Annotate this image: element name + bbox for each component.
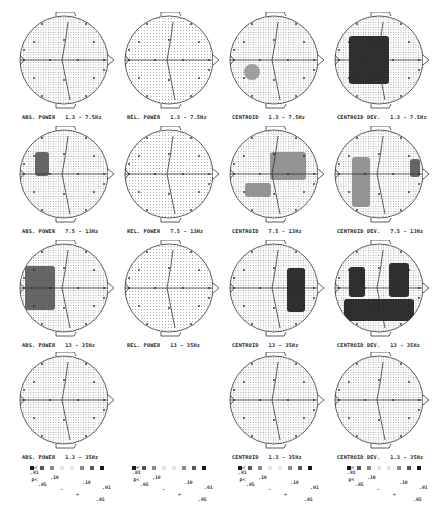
scalp-topography-icon: [18, 240, 128, 340]
legend-swatch: [40, 466, 44, 470]
scalp-topography-icon: [123, 12, 233, 112]
scalp-topography-icon: [18, 12, 128, 112]
map-label: CENTROID DEV. 13 - 35Hz: [337, 342, 420, 348]
legend-swatch: [278, 466, 282, 470]
legend-swatch: [268, 466, 272, 470]
head-map-centroid-dev: CENTROID DEV. 13 - 35Hz: [333, 240, 443, 358]
map-label: ABS. POWER 1.3 - 7.5Hz: [22, 114, 102, 120]
head-map-abs-power: ABS. POWER 1.3 - 7.5Hz: [18, 12, 128, 130]
map-label: CENTROID DEV. 7.5 - 13Hz: [337, 228, 423, 234]
legend-swatch: [70, 466, 74, 470]
legend-swatch: [132, 466, 136, 470]
scalp-topography-icon: [228, 126, 338, 226]
scalp-topography-icon: [228, 12, 338, 112]
head-map-centroid-dev: CENTROID DEV. 1.3 - 35Hz: [333, 352, 443, 470]
scalp-topography-icon: [123, 240, 233, 340]
legend-swatch: [407, 466, 411, 470]
head-map-centroid: CENTROID 13 - 35Hz: [228, 240, 338, 358]
legend-swatch: [357, 466, 361, 470]
head-map-centroid: CENTROID 1.3 - 7.5Hz: [228, 12, 338, 130]
map-label: REL. POWER 1.3 - 7.5Hz: [127, 114, 207, 120]
legend-swatch: [308, 466, 312, 470]
legend-swatch: [100, 466, 104, 470]
scalp-topography-icon: [333, 126, 443, 226]
head-map-centroid-dev: CENTROID DEV. 7.5 - 13Hz: [333, 126, 443, 244]
legend-swatch: [397, 466, 401, 470]
scalp-topography-icon: [18, 126, 128, 226]
legend-swatch: [90, 466, 94, 470]
legend-swatch: [152, 466, 156, 470]
legend-swatch: [298, 466, 302, 470]
map-label: CENTROID DEV. 1.3 - 7.5Hz: [337, 114, 427, 120]
map-label: CENTROID 13 - 35Hz: [232, 342, 298, 348]
head-map-rel-power: REL. POWER 7.5 - 13Hz: [123, 126, 233, 244]
legend-swatch: [387, 466, 391, 470]
legend-swatch: [60, 466, 64, 470]
legend-swatch: [182, 466, 186, 470]
significance-legend-centroid-dev: p< .01 .10 .10 .01 p< .05 - + .05: [337, 460, 427, 480]
significance-legend-left: p< .01 .10 .10 .01 p< .05 - + .05: [20, 460, 110, 480]
legend-swatch: [417, 466, 421, 470]
legend-swatch: [30, 466, 34, 470]
scalp-topography-icon: [333, 12, 443, 112]
legend-bottom-row: p< .05 - + .05: [20, 472, 37, 505]
head-map-centroid: CENTROID 7.5 - 13Hz: [228, 126, 338, 244]
legend-swatch: [192, 466, 196, 470]
legend-swatch: [50, 466, 54, 470]
head-map-abs-power: ABS. POWER 7.5 - 13Hz: [18, 126, 128, 244]
legend-swatch: [80, 466, 84, 470]
significance-legend-centroid: p< .01 .10 .10 .01 p< .05 - + .05: [228, 460, 318, 480]
significance-legend-middle: p< .01 .10 .10 .01 p< .05 - + .05: [122, 460, 212, 480]
legend-swatch: [377, 466, 381, 470]
scalp-topography-icon: [228, 352, 338, 452]
scalp-topography-icon: [123, 126, 233, 226]
head-map-centroid-dev: CENTROID DEV. 1.3 - 7.5Hz: [333, 12, 443, 130]
scalp-topography-icon: [333, 352, 443, 452]
head-map-abs-power: ABS. POWER 13 - 35Hz: [18, 240, 128, 358]
map-label: CENTROID 7.5 - 13Hz: [232, 228, 302, 234]
legend-swatch: [367, 466, 371, 470]
legend-swatch: [248, 466, 252, 470]
legend-swatch: [142, 466, 146, 470]
scalp-topography-icon: [228, 240, 338, 340]
legend-swatch: [162, 466, 166, 470]
legend-swatch: [238, 466, 242, 470]
map-label: CENTROID 1.3 - 7.5Hz: [232, 114, 305, 120]
legend-swatch: [288, 466, 292, 470]
legend-swatch: [258, 466, 262, 470]
map-label: REL. POWER 7.5 - 13Hz: [127, 228, 203, 234]
map-label: ABS. POWER 7.5 - 13Hz: [22, 228, 98, 234]
legend-swatch: [347, 466, 351, 470]
head-map-abs-power: ABS. POWER 1.3 - 35Hz: [18, 352, 128, 470]
scalp-topography-icon: [333, 240, 443, 340]
legend-swatch: [172, 466, 176, 470]
head-map-rel-power: REL. POWER 1.3 - 7.5Hz: [123, 12, 233, 130]
head-map-rel-power: REL. POWER 13 - 35Hz: [123, 240, 233, 358]
map-label: ABS. POWER 13 - 35Hz: [22, 342, 95, 348]
map-label: REL. POWER 13 - 35Hz: [127, 342, 200, 348]
scalp-topography-icon: [18, 352, 128, 452]
legend-swatch: [202, 466, 206, 470]
head-map-centroid: CENTROID 1.3 - 35Hz: [228, 352, 338, 470]
